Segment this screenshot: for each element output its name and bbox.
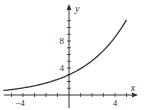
y-axis-arrow-icon	[67, 4, 72, 10]
y-tick-label-8: 8	[60, 36, 65, 46]
x-tick-label-4: 4	[113, 98, 118, 108]
x-axis-label: x	[130, 82, 136, 93]
y-axis-label: y	[74, 3, 80, 14]
exponential-curve	[3, 20, 126, 91]
x-tick-label-neg4: −4	[15, 98, 25, 108]
x-axis-arrow-icon	[132, 93, 138, 98]
exponential-chart: −4 4 4 8 x y	[0, 0, 144, 110]
y-tick-label-4: 4	[60, 63, 65, 73]
